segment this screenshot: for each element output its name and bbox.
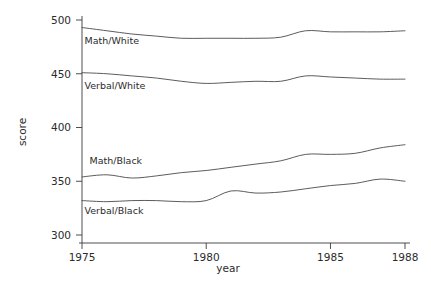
series-label-math-black: Math/Black <box>89 155 142 166</box>
chart-container: 300350400450500 1975198019851988 Math/Wh… <box>0 0 431 285</box>
y-axis-ticks: 300350400450500 <box>51 14 82 241</box>
series-label-math-white: Math/White <box>84 35 139 46</box>
series-label-verbal-white: Verbal/White <box>84 80 145 91</box>
series-label-verbal-black: Verbal/Black <box>84 205 143 216</box>
series-lines-group <box>82 28 405 202</box>
x-axis-ticks: 1975198019851988 <box>69 243 419 263</box>
x-tick-label: 1975 <box>69 251 96 263</box>
y-tick-label: 300 <box>51 229 71 241</box>
y-tick-label: 350 <box>51 175 71 187</box>
y-tick-label: 450 <box>51 68 71 80</box>
series-line-verbal-black <box>82 179 405 202</box>
x-tick-label: 1988 <box>392 251 419 263</box>
line-chart: 300350400450500 1975198019851988 Math/Wh… <box>0 0 431 285</box>
x-axis: 1975198019851988 <box>69 243 419 263</box>
x-axis-title: year <box>216 262 240 274</box>
y-axis: 300350400450500 <box>51 14 82 243</box>
y-tick-label: 500 <box>51 14 71 26</box>
x-tick-label: 1985 <box>317 251 344 263</box>
series-labels-group: Math/WhiteVerbal/WhiteMath/BlackVerbal/B… <box>84 35 145 216</box>
y-tick-label: 400 <box>51 121 71 133</box>
y-axis-title: score <box>16 118 28 146</box>
